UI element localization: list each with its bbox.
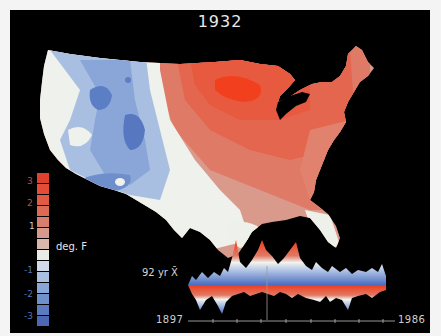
year-title: 1932 — [10, 12, 430, 31]
legend-swatch — [37, 184, 49, 194]
timeseries-mean-label: 92 yr X̄ — [142, 267, 178, 278]
temperature-anomaly-map — [10, 10, 430, 333]
map-frame: 1932 3 2 1 deg. F -1 -2 -3 92 yr X̄ 1897… — [10, 10, 430, 333]
color-legend — [37, 173, 49, 327]
legend-swatch — [37, 217, 49, 227]
timeseries-chart — [188, 240, 395, 323]
legend-swatch — [37, 195, 49, 205]
legend-swatch — [37, 173, 49, 183]
legend-tick-3: 3 — [27, 176, 33, 186]
legend-swatch — [37, 250, 49, 260]
legend-tick-neg2: -2 — [24, 289, 33, 299]
legend-swatch — [37, 316, 49, 326]
legend-tick-neg3: -3 — [24, 311, 33, 321]
legend-swatch — [37, 272, 49, 282]
legend-swatch — [37, 283, 49, 293]
legend-swatch — [37, 239, 49, 249]
start-year: 1897 — [156, 314, 183, 325]
legend-unit: deg. F — [56, 241, 87, 252]
legend-tick-2: 2 — [27, 198, 33, 208]
legend-swatch — [37, 261, 49, 271]
legend-swatch — [37, 294, 49, 304]
legend-swatch — [37, 228, 49, 238]
legend-tick-1: 1 — [29, 221, 35, 231]
legend-swatch — [37, 305, 49, 315]
legend-swatch — [37, 206, 49, 216]
legend-tick-neg1: -1 — [24, 265, 33, 275]
end-year: 1986 — [398, 314, 425, 325]
